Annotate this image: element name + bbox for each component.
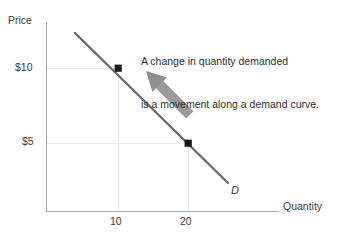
x-tick-label-20: 20 <box>180 215 192 229</box>
demand-curve-label: D <box>231 183 239 198</box>
y-axis-title: Price <box>8 14 32 28</box>
annotation-line-1: A change in quantity demanded <box>141 54 319 68</box>
demand-curve-diagram: Price Quantity $10 $5 10 20 A change in … <box>0 0 344 239</box>
y-tick-label-10: $10 <box>15 61 33 75</box>
point-marker-a <box>115 65 122 72</box>
movement-annotation-text: A change in quantity demanded is a movem… <box>141 25 319 141</box>
annotation-line-2: is a movement along a demand curve. <box>141 97 319 111</box>
x-tick-label-10: 10 <box>110 215 122 229</box>
x-axis-title: Quantity <box>283 200 322 214</box>
y-tick-label-5: $5 <box>22 135 34 149</box>
